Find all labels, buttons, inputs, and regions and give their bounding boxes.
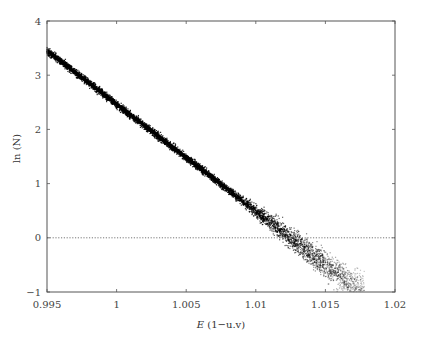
y-tick-label: 3 bbox=[35, 70, 41, 81]
x-tick-label: 1.02 bbox=[384, 299, 406, 310]
x-axis-label: E (1−u.v) bbox=[196, 319, 245, 330]
y-tick-label: 4 bbox=[35, 16, 41, 27]
y-tick-label: 2 bbox=[35, 124, 41, 135]
dense-band-core bbox=[47, 51, 228, 190]
y-axis-label: ln (N) bbox=[11, 134, 22, 163]
x-tick-label: 1.015 bbox=[311, 299, 340, 310]
x-tick-label: 1.01 bbox=[245, 299, 267, 310]
x-tick-label: 1 bbox=[113, 299, 119, 310]
x-tick-label: 0.995 bbox=[33, 299, 62, 310]
y-axis: −101234 bbox=[26, 16, 395, 298]
y-tick-label: 0 bbox=[35, 232, 41, 243]
y-tick-label: −1 bbox=[26, 287, 41, 298]
chart: 0.99511.0051.011.0151.02 −101234 E (1−u.… bbox=[0, 0, 424, 344]
scatter-points bbox=[46, 47, 365, 292]
x-tick-label: 1.005 bbox=[172, 299, 201, 310]
x-axis: 0.99511.0051.011.0151.02 bbox=[33, 21, 406, 310]
y-tick-label: 1 bbox=[35, 178, 41, 189]
plot-frame bbox=[47, 21, 395, 292]
